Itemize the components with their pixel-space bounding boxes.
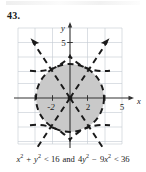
page-scan-artifact (6, 1, 140, 5)
caption-term4-exp: 2 (108, 153, 111, 159)
caption-term2-exp: 2 (38, 153, 41, 159)
origin-marker (68, 96, 72, 100)
y-axis-label: y (60, 23, 65, 33)
caption-rel2: < 36 (114, 154, 130, 164)
caption-term1-exp: 2 (20, 153, 23, 159)
x-tick-label-neg2: -2 (47, 102, 55, 112)
caption-rel1: < 16 (44, 154, 60, 164)
caption-conjunction: and (62, 154, 74, 164)
math-figure: 43. (0, 0, 146, 172)
x-tick-label-2: 2 (86, 102, 91, 112)
coordinate-plot: -2 2 5 5 x y (0, 22, 146, 150)
x-axis-label: x (136, 96, 141, 106)
problem-number: 43. (7, 10, 20, 21)
x-tick-label-5: 5 (120, 102, 125, 112)
plot-svg: -2 2 5 5 x y (0, 22, 146, 150)
caption-plus: + (26, 154, 31, 164)
y-tick-label-5: 5 (61, 38, 66, 48)
caption-minus: − (92, 154, 97, 164)
caption-term3-exp: 2 (86, 153, 89, 159)
figure-caption: x2+y2< 16and4y2−9x2< 36 (0, 153, 146, 164)
